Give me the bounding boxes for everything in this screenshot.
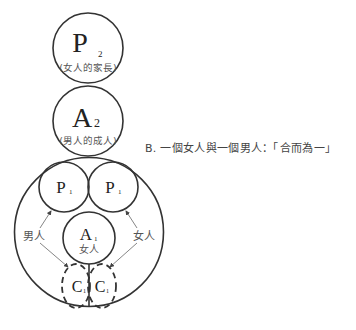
svg-text:2: 2 — [98, 49, 103, 59]
svg-text:1: 1 — [106, 288, 109, 294]
transaction-diagram: P 2 (女人的家長) A 2 (男人的成人) P 1 P 1 A 1 女人 C… — [0, 0, 356, 330]
svg-text:C: C — [72, 278, 83, 295]
diagram-caption: B. 一個女人與一個男人：「合而為一」 — [145, 139, 336, 155]
p1-left-node: P 1 — [39, 162, 89, 212]
p1-right-node: P 1 — [88, 162, 138, 212]
svg-text:女人: 女人 — [79, 243, 99, 255]
svg-text:P: P — [56, 178, 65, 197]
svg-text:P: P — [72, 27, 88, 58]
svg-text:P: P — [105, 178, 114, 197]
svg-text:1: 1 — [83, 288, 86, 294]
svg-text:A: A — [80, 225, 93, 244]
svg-text:1: 1 — [94, 235, 98, 243]
a2-node: A 2 (男人的成人) — [53, 86, 123, 156]
svg-text:1: 1 — [118, 188, 122, 196]
svg-text:1: 1 — [69, 188, 73, 196]
c-right-node: C 1 — [88, 264, 116, 308]
c-left-node: C 1 — [62, 264, 90, 308]
svg-text:(男人的成人): (男人的成人) — [59, 135, 116, 146]
p2-node: P 2 (女人的家長) — [53, 13, 123, 83]
svg-text:2: 2 — [94, 116, 100, 130]
left-arrow-label: 男人 — [23, 230, 45, 243]
svg-text:A: A — [72, 102, 93, 133]
svg-text:(女人的家長): (女人的家長) — [59, 62, 116, 73]
right-arrow-label: 女人 — [133, 229, 155, 243]
a1-node: A 1 女人 — [63, 212, 115, 264]
svg-text:C: C — [95, 278, 106, 295]
